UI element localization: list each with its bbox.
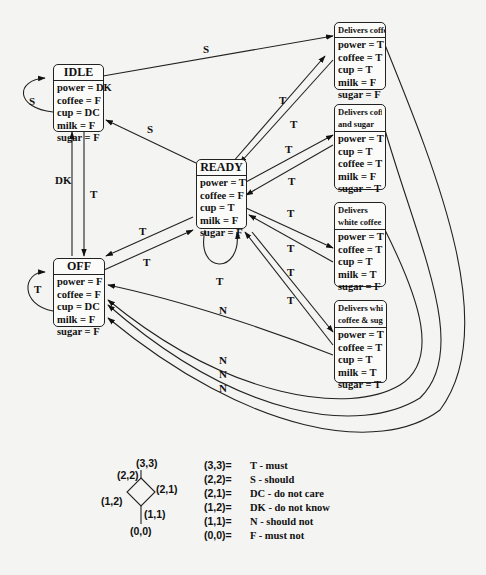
legend-key: (0,0)=: [204, 529, 250, 541]
legend-value: DC - do not care: [250, 488, 324, 499]
lattice-node-3-3: (3,3): [136, 457, 158, 469]
lattice-node-2-2: (2,2): [117, 469, 139, 481]
state-title: Delivers white coffee & sugar: [335, 301, 386, 328]
lattice-node-1-2: (1,2): [101, 495, 123, 507]
state-var: coffee = F: [200, 190, 243, 203]
state-var: milk = F: [338, 171, 382, 184]
state-var: cup = T: [338, 354, 383, 367]
state-var: sugar = F: [57, 132, 100, 145]
edge-white-to-ready: [249, 215, 333, 262]
legend-value: S - should: [250, 474, 294, 485]
state-var: sugar = F: [57, 326, 101, 339]
edge-coffee-sugar-to-off: [108, 130, 441, 416]
label-coffee-to-ready: T: [290, 118, 297, 130]
state-var: cup = T: [338, 146, 382, 159]
label-idle-to-off: DK: [55, 174, 72, 186]
state-var: milk = T: [338, 367, 383, 380]
legend-key: (2,2)=: [204, 473, 250, 485]
state-title: OFF: [54, 259, 104, 275]
label-ready-to-coffee-sugar: T: [285, 143, 292, 155]
label-off-self: T: [34, 283, 41, 295]
label-ready-self: T: [216, 275, 223, 287]
legend-entry: (1,2)=DK - do not know: [204, 501, 330, 513]
legend-entry: (2,1)=DC - do not care: [204, 487, 324, 499]
state-delivers-white-coffee-sugar: Delivers white coffee & sugar power = T …: [334, 300, 387, 383]
state-var: coffee = F: [57, 95, 100, 108]
label-white-sugar-to-ready: T: [287, 294, 294, 306]
label-off-to-ready: T: [143, 256, 150, 268]
state-title: Delivers coffee and sugar: [335, 105, 385, 132]
state-title-line: Delivers: [338, 204, 382, 216]
label-off-to-idle: T: [90, 188, 97, 200]
legend-key: (3,3)=: [204, 459, 250, 471]
state-var: power = T: [200, 177, 243, 190]
label-white-to-ready: T: [287, 242, 294, 254]
label-idle-to-coffee: S: [203, 43, 209, 55]
state-var: power = T: [338, 39, 382, 52]
legend-value: DK - do not know: [250, 502, 330, 513]
state-var: cup = T: [338, 64, 382, 77]
state-var: sugar = F: [338, 89, 382, 102]
state-off: OFF power = F coffee = F cup = DC milk =…: [53, 258, 105, 327]
legend-value: T - must: [250, 460, 288, 471]
state-var: sugar = T: [338, 379, 383, 392]
state-var: milk = F: [338, 77, 382, 90]
state-delivers-coffee-sugar: Delivers coffee and sugar power = T cup …: [334, 104, 386, 190]
state-var: cup = T: [200, 202, 243, 215]
legend-value: F - must not: [250, 530, 304, 541]
state-title: Delivers coffee: [335, 23, 385, 38]
state-ready: READY power = T coffee = F cup = T milk …: [196, 159, 247, 229]
state-var: coffee = T: [338, 158, 382, 171]
legend-entry: (0,0)=F - must not: [204, 529, 304, 541]
state-var: milk = F: [57, 120, 100, 133]
legend-key: (1,2)=: [204, 501, 250, 513]
label-return-to-off: N: [219, 354, 227, 366]
label-ready-to-off: T: [139, 225, 146, 237]
lattice-node-0-0: (0,0): [130, 525, 152, 537]
state-title-line: and sugar: [338, 118, 382, 130]
state-idle: IDLE power = DK coffee = F cup = DC milk…: [53, 64, 104, 132]
state-title-line: white coffee: [338, 216, 382, 228]
label-ready-to-white: T: [287, 207, 294, 219]
legend-key: (1,1)=: [204, 515, 250, 527]
lattice-node-1-1: (1,1): [144, 508, 166, 520]
state-var: coffee = T: [338, 52, 382, 65]
state-var: milk = T: [338, 269, 382, 282]
label-return-to-off: N: [219, 368, 227, 380]
state-delivers-coffee: Delivers coffee power = T coffee = T cup…: [334, 22, 386, 90]
label-return-to-off: N: [219, 382, 227, 394]
legend-entry: (3,3)=T - must: [204, 459, 288, 471]
state-title-line: coffee & sugar: [338, 314, 383, 326]
state-var: coffee = F: [57, 289, 101, 302]
state-var: cup = DC: [57, 301, 101, 314]
state-var: sugar = T: [338, 183, 382, 196]
state-var: cup = T: [338, 256, 382, 269]
legend-key: (2,1)=: [204, 487, 250, 499]
state-var: power = T: [338, 329, 383, 342]
label-white-sugar-to-off: N: [219, 304, 227, 316]
state-var: milk = F: [57, 314, 101, 327]
label-ready-to-white-sugar: T: [287, 266, 294, 278]
legend-value: N - should not: [250, 516, 313, 527]
state-var: coffee = T: [338, 342, 383, 355]
legend-entry: (1,1)=N - should not: [204, 515, 313, 527]
label-ready-to-idle: S: [147, 123, 153, 135]
state-title: Delivers white coffee: [335, 203, 385, 230]
state-title-line: Delivers white: [338, 302, 383, 314]
state-var: power = F: [57, 276, 101, 289]
state-var: power = T: [338, 133, 382, 146]
lattice-node-2-1: (2,1): [156, 483, 178, 495]
label-coffee-sugar-to-ready: T: [288, 175, 295, 187]
legend-entry: (2,2)=S - should: [204, 473, 294, 485]
state-title: READY: [197, 160, 246, 176]
edge-idle-self: [23, 78, 53, 112]
state-var: coffee = T: [338, 244, 382, 257]
state-delivers-white-coffee: Delivers white coffee power = T coffee =…: [334, 202, 386, 287]
label-ready-to-coffee: T: [279, 94, 286, 106]
state-var: power = DK: [57, 82, 100, 95]
state-var: milk = F: [200, 215, 243, 228]
edge-idle-to-coffee: [103, 36, 333, 76]
state-var: cup = DC: [57, 107, 100, 120]
state-title-line: Delivers coffee: [338, 106, 382, 118]
state-var: power = T: [338, 231, 382, 244]
